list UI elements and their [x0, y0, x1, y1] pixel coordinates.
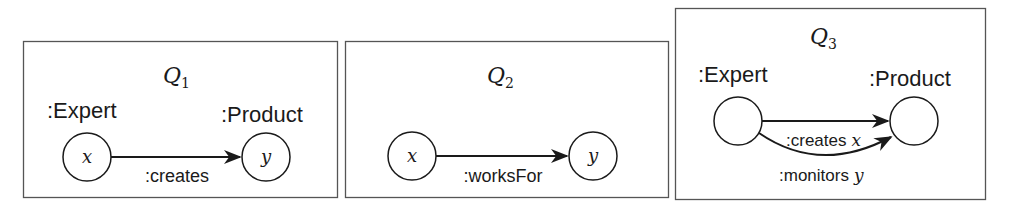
target-class-label: :Product [869, 66, 951, 91]
target-class-label: :Product [221, 102, 303, 127]
source-class-label: :Expert [47, 98, 117, 123]
target-node [890, 97, 938, 145]
panel-q1: Q1 :Expert :Product x y :creates [24, 42, 338, 198]
source-node [714, 97, 762, 145]
panel-title: Q2 [487, 63, 514, 91]
edge-label: :worksFor [463, 166, 542, 186]
target-node-var: y [260, 146, 272, 167]
source-class-label: :Expert [698, 62, 768, 87]
panel-title: Q1 [163, 63, 190, 91]
edge-label-monitors: :monitorsy [779, 165, 864, 185]
edge-label-creates: :createsx [786, 130, 861, 150]
edge-label: :creates [145, 166, 209, 186]
panel-title: Q3 [810, 24, 837, 52]
query-patterns-diagram: Q1 :Expert :Product x y :creates Q2 x y … [0, 0, 1012, 216]
target-node-var: y [587, 145, 599, 166]
source-node-var: x [82, 146, 92, 167]
panel-q3: Q3 :Expert :Product :createsx :monitorsy [676, 9, 986, 200]
source-node-var: x [407, 145, 417, 166]
panel-q2: Q2 x y :worksFor [346, 42, 669, 198]
